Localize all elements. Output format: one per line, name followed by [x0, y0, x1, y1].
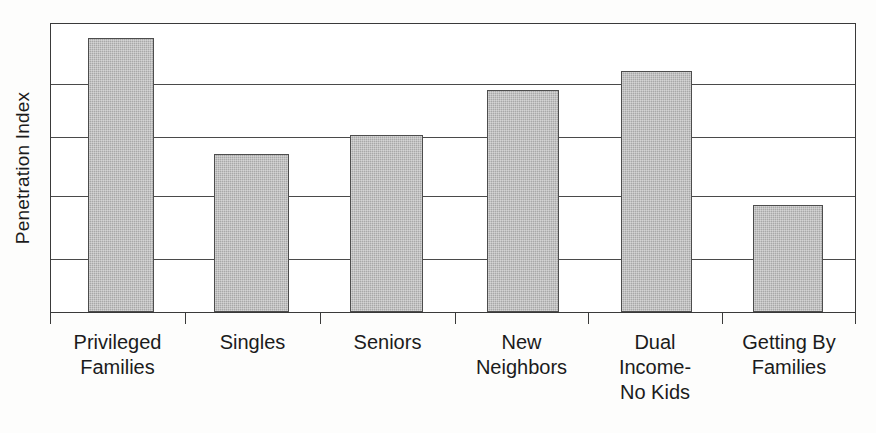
plot-area	[50, 23, 856, 313]
y-axis-title: Penetration Index	[0, 20, 46, 315]
category-label-singles: Singles	[185, 330, 320, 355]
x-axis-tick-1	[185, 313, 186, 324]
bar-seniors	[350, 135, 423, 312]
x-axis-tick-0	[50, 313, 51, 324]
x-axis-category-labels: Privileged Families Singles Seniors New …	[50, 330, 856, 426]
category-label-dual-income-no-kids: Dual Income- No Kids	[588, 330, 722, 405]
y-axis-title-text: Penetration Index	[12, 91, 34, 243]
bar-new-neighbors	[487, 90, 559, 312]
category-label-new-neighbors: New Neighbors	[455, 330, 588, 380]
x-axis-tick-2	[320, 313, 321, 324]
bar-chart-figure: Penetration Index Privileged Families Si…	[0, 0, 876, 433]
category-label-getting-by-families: Getting By Families	[722, 330, 856, 380]
category-label-privileged-families: Privileged Families	[50, 330, 185, 380]
bar-dual-income-no-kids	[621, 71, 692, 312]
bar-singles	[214, 154, 289, 312]
x-axis-tick-6	[855, 313, 856, 324]
x-axis-tick-4	[588, 313, 589, 324]
x-axis-tick-3	[455, 313, 456, 324]
bars-layer	[51, 24, 855, 312]
bar-getting-by-families	[753, 205, 823, 312]
category-label-seniors: Seniors	[320, 330, 455, 355]
x-axis-tick-5	[722, 313, 723, 324]
bar-privileged-families	[88, 38, 154, 312]
